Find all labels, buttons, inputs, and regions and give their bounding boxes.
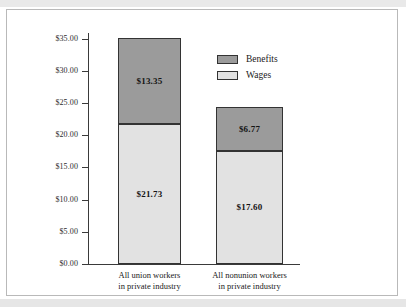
bar-value-label-wages: $21.73 [119, 190, 180, 199]
y-axis-tick-label-wrap: $10.00 [28, 196, 78, 204]
category-label-line: All nonunion workers [190, 270, 310, 281]
y-axis-tick-label: $35.00 [32, 35, 78, 43]
y-axis-tick [82, 167, 89, 168]
category-label-line: in private industry [190, 281, 310, 292]
y-axis-tick-label-wrap: $30.00 [28, 67, 78, 75]
bar-value-label-benefits: $6.77 [217, 125, 282, 134]
bar-value-label-wages: $17.60 [217, 203, 282, 212]
x-axis-line [88, 264, 300, 265]
bar-segment-benefits: $13.35 [118, 38, 181, 124]
y-axis-tick-label-wrap: $20.00 [28, 131, 78, 139]
bar-segment-wages: $21.73 [118, 124, 181, 264]
y-axis-tick-label: $10.00 [32, 196, 78, 204]
y-axis-tick-label: $30.00 [32, 67, 78, 75]
legend-label-benefits: Benefits [246, 53, 278, 66]
bar-segment-wages: $17.60 [216, 151, 283, 264]
y-axis-tick [82, 200, 89, 201]
bar-group: $17.60$6.77 [216, 0, 283, 264]
y-axis-tick-label: $5.00 [32, 228, 78, 236]
y-axis-tick-label-wrap: $25.00 [28, 99, 78, 107]
chart-plot-area: $0.00$5.00$10.00$15.00$20.00$25.00$30.00… [0, 0, 406, 307]
y-axis-tick-label: $15.00 [32, 163, 78, 171]
y-axis-tick-label: $25.00 [32, 99, 78, 107]
y-axis-tick [82, 103, 89, 104]
y-axis-tick-label: $20.00 [32, 131, 78, 139]
y-axis-tick-label-wrap: $35.00 [28, 35, 78, 43]
bar-group: $21.73$13.35 [118, 0, 181, 264]
y-axis-tick [82, 135, 89, 136]
y-axis-line [88, 33, 89, 265]
y-axis-tick [82, 71, 89, 72]
y-axis-tick [82, 232, 89, 233]
y-axis-tick-label: $0.00 [32, 260, 78, 268]
legend-swatch-wages-icon [217, 71, 238, 80]
legend-label-wages: Wages [246, 69, 271, 82]
y-axis-tick-label-wrap: $0.00 [28, 260, 78, 268]
x-axis-category-label: All nonunion workersin private industry [190, 270, 310, 292]
y-axis-tick-label-wrap: $5.00 [28, 228, 78, 236]
bar-segment-benefits: $6.77 [216, 107, 283, 151]
bar-value-label-benefits: $13.35 [119, 77, 180, 86]
y-axis-tick [82, 39, 89, 40]
y-axis-tick [82, 264, 89, 265]
y-axis-tick-label-wrap: $15.00 [28, 163, 78, 171]
legend-swatch-benefits-icon [217, 55, 238, 64]
